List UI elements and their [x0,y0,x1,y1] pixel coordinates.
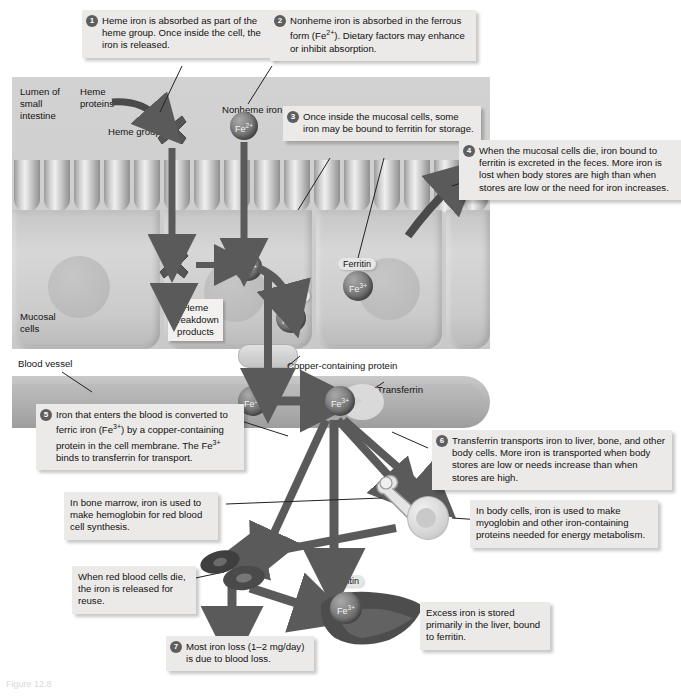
villus [314,160,340,212]
fe3-sphere-transferrin: Fe3+ [325,386,355,416]
label-heme-proteins: Heme proteins [80,86,114,110]
fe-symbol: Fe [349,284,360,294]
callout-text: Nonheme iron is absorbed in the ferrous … [290,15,465,54]
heme-group-icon-lumen [155,113,189,147]
fe-symbol: Fe [337,606,348,616]
callout-text: Heme iron is absorbed as part of the hem… [102,15,261,50]
fe-charge: 3+ [342,397,349,404]
callout-rbc-death: When red blood cells die, the iron is re… [72,566,196,614]
callout-bone-marrow: In bone marrow, iron is used to make hem… [64,492,218,540]
villus [14,160,40,212]
callout-step-1: 1 Heme iron is absorbed as part of the h… [82,10,276,58]
fe3-sphere-ferritin-right: Fe3+ [343,271,373,301]
callout-liver-storage: Excess iron is stored primarily in the l… [420,602,550,650]
figure-caption: Figure 12.8 [6,679,52,689]
callout-text: Excess iron is stored primarily in the l… [426,607,540,642]
callout-step-2: 2 Nonheme iron is absorbed in the ferrou… [270,10,476,61]
body-cell-nucleus [416,508,436,528]
callout-step-5: 5 Iron that enters the blood is converte… [36,404,244,470]
villus [224,160,250,212]
callout-step-4: 4 When the mucosal cells die, iron bound… [459,140,681,200]
label-heme-group: Heme group [108,126,161,138]
mucosal-cell [316,210,442,349]
fe-charge: 3+ [293,314,300,321]
cell-nucleus [48,256,110,318]
villus [374,160,400,212]
fe-charge: 3+ [360,282,367,289]
fe-charge: 3+ [348,604,355,611]
callout-text: When red blood cells die, the iron is re… [78,571,186,606]
villus [344,160,370,212]
callout-step-6: 6 Transferrin transports iron to liver, … [432,430,672,490]
leader-bone-marrow [226,498,382,504]
label-lumen: Lumen of small intestine [20,86,60,122]
villus [434,160,460,212]
callout-text: Iron that enters the blood is converted … [56,409,228,463]
fe2-sphere-cell: Fe2+ [234,253,262,281]
step-badge: 1 [86,15,98,27]
fe-symbol: Fe [282,316,293,326]
villus [74,160,100,212]
villus [104,160,130,212]
callout-text: Once inside the mucosal cells, some iron… [303,111,474,134]
label-blood-vessel: Blood vessel [18,358,72,370]
label-ferritin-mid: Ferritin [272,290,310,302]
fe2-sphere-lumen: Fe2+ [230,112,258,140]
label-ferritin-right: Ferritin [338,258,376,270]
callout-step-3: 3 Once inside the mucosal cells, some ir… [283,106,481,141]
callout-text: In bone marrow, iron is used to make hem… [70,497,202,532]
mucosal-cell [446,210,490,349]
arrow-to-rbc [268,420,326,546]
fe-symbol: Fe [244,399,255,409]
fe-charge: 3+ [255,397,262,404]
callout-text: Transferrin transports iron to liver, bo… [452,435,665,483]
callout-text: When the mucosal cells die, iron bound t… [479,145,669,193]
label-copper-protein: Copper-containing protein [287,360,397,372]
villus [44,160,70,212]
fe3-sphere-liver: Fe3+ [330,592,362,624]
callout-text: Most iron loss (1–2 mg/day) is due to bl… [186,641,304,664]
step-badge: 4 [463,145,475,157]
label-ferritin-liver: Ferritin [326,575,364,587]
villus [254,160,280,212]
step-badge: 5 [40,409,52,421]
heme-group-icon-cell [157,247,191,281]
fe3-sphere-ferritin-mid: Fe3+ [276,303,306,333]
step-badge: 2 [274,15,286,27]
villi-group [12,160,490,212]
villus [164,160,190,212]
callout-step-7: 7 Most iron loss (1–2 mg/day) is due to … [166,636,314,671]
villus [284,160,310,212]
step-badge: 7 [170,641,182,653]
red-blood-cells [196,548,272,598]
fe-symbol: Fe [239,265,250,275]
villus [194,160,220,212]
villus [404,160,430,212]
fe-symbol: Fe [235,124,246,134]
fe-charge: 2+ [246,122,253,129]
fe-charge: 2+ [250,263,257,270]
callout-text: In body cells, iron is used to make myog… [476,505,645,540]
leader-step-6 [392,432,428,448]
villus [134,160,160,212]
fe-symbol: Fe [331,399,342,409]
step-badge: 3 [287,111,299,123]
label-mucosal-cells: Mucosal cells [20,311,56,335]
callout-body-cells: In body cells, iron is used to make myog… [470,500,658,548]
label-heme-breakdown-products: Heme breakdown products [168,299,223,341]
step-badge: 6 [436,435,448,447]
